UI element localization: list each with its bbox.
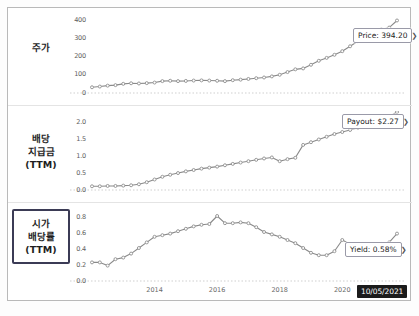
panel-price: 주가 4003002001000 Price: 394.20 ❯ <box>8 8 412 105</box>
y-axis-tick: 300 <box>66 34 86 42</box>
row-label-payout-line-2: (TTM) <box>12 158 70 171</box>
data-point <box>302 143 305 146</box>
date-badge: 10/05/2021 <box>357 285 407 298</box>
data-point <box>325 56 328 59</box>
data-point <box>184 170 187 173</box>
data-point <box>247 160 250 163</box>
data-point <box>145 82 148 85</box>
series-line <box>92 20 397 87</box>
data-point <box>98 85 101 88</box>
data-point <box>263 76 266 79</box>
data-point <box>169 173 172 176</box>
x-axis-tick: 2020 <box>327 286 357 294</box>
data-point <box>341 239 344 242</box>
data-point <box>239 161 242 164</box>
data-point <box>208 79 211 82</box>
data-point <box>137 82 140 85</box>
data-point <box>302 67 305 70</box>
data-point <box>270 233 273 236</box>
chevron-right-icon: ❯ <box>401 247 407 253</box>
data-point <box>106 184 109 187</box>
y-axis-tick: 0.2 <box>66 261 86 269</box>
annotation-yield-text: Yield: 0.58% <box>350 245 397 254</box>
row-label-yield-line-1: 배당률 <box>14 230 68 243</box>
data-point <box>396 19 399 22</box>
data-point <box>255 77 258 80</box>
data-point <box>278 235 281 238</box>
y-axis-tick: 2.0 <box>66 118 86 126</box>
data-point <box>263 231 266 234</box>
data-point <box>200 79 203 82</box>
y-axis-tick: 1.5 <box>66 135 86 143</box>
data-point <box>231 222 234 225</box>
chevron-right-icon: ❯ <box>403 119 409 125</box>
annotation-payout: Payout: $2.27 ❯ <box>342 114 404 129</box>
data-point <box>341 50 344 53</box>
data-point <box>294 242 297 245</box>
data-point <box>333 133 336 136</box>
data-point <box>294 156 297 159</box>
y-axis-tick: 0.5 <box>66 169 86 177</box>
data-point <box>114 84 117 87</box>
data-point <box>333 53 336 56</box>
data-point <box>145 241 148 244</box>
data-point <box>309 251 312 254</box>
y-axis-tick: 0.4 <box>66 245 86 253</box>
chart-card: 주가 4003002001000 Price: 394.20 ❯ 배당지급금(T… <box>7 7 411 301</box>
data-point <box>239 78 242 81</box>
data-point <box>169 232 172 235</box>
data-point <box>302 247 305 250</box>
data-point <box>255 158 258 161</box>
data-point <box>122 184 125 187</box>
chevron-right-icon: ❯ <box>412 33 418 39</box>
data-point <box>309 63 312 66</box>
data-point <box>106 84 109 87</box>
data-point <box>98 261 101 264</box>
data-point <box>286 239 289 242</box>
row-label-price: 주가 <box>12 41 70 54</box>
data-point <box>325 135 328 138</box>
row-label-payout-line-0: 배당 <box>12 132 70 145</box>
data-point <box>270 75 273 78</box>
row-label-yield[interactable]: 시가배당률(TTM) <box>12 209 70 264</box>
data-point <box>169 79 172 82</box>
data-point <box>349 45 352 48</box>
data-point <box>91 261 94 264</box>
panel-payout: 배당지급금(TTM) 2.01.51.00.50.0 Payout: $2.27… <box>8 105 412 202</box>
x-axis-tick: 2014 <box>140 286 170 294</box>
row-label-yield-line-2: (TTM) <box>14 243 68 256</box>
data-point <box>137 247 140 250</box>
data-point <box>184 79 187 82</box>
data-point <box>294 68 297 71</box>
data-point <box>145 181 148 184</box>
data-point <box>98 185 101 188</box>
data-point <box>130 82 133 85</box>
panel-yield: 시가배당률(TTM) 0.80.60.40.20.0 Yield: 0.58% … <box>8 202 412 302</box>
data-point <box>317 138 320 141</box>
data-point <box>263 157 266 160</box>
data-point <box>396 232 399 235</box>
data-point <box>278 160 281 163</box>
data-point <box>216 79 219 82</box>
annotation-price-text: Price: 394.20 <box>358 31 407 40</box>
data-point <box>286 71 289 74</box>
y-axis-tick: 0 <box>66 89 86 97</box>
data-point <box>231 162 234 165</box>
data-point <box>122 256 125 259</box>
annotation-yield: Yield: 0.58% ❯ <box>345 242 402 257</box>
plot-price: 4003002001000 <box>70 14 405 96</box>
row-label-yield-line-0: 시가 <box>14 217 68 230</box>
series-line <box>92 216 397 266</box>
y-axis-tick: 200 <box>66 52 86 60</box>
data-point <box>255 226 258 229</box>
data-point <box>216 165 219 168</box>
plot-price-svg <box>70 14 405 96</box>
data-point <box>161 80 164 83</box>
data-point <box>223 222 226 225</box>
data-point <box>333 250 336 253</box>
data-point <box>247 77 250 80</box>
data-point <box>278 73 281 76</box>
data-point <box>130 184 133 187</box>
data-point <box>130 252 133 255</box>
data-point <box>325 254 328 257</box>
